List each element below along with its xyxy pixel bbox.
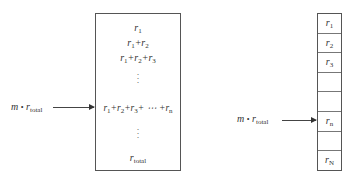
left-input-label: m • rtotal <box>11 101 42 114</box>
rate-column: r1 r2 r3 rn rN <box>317 13 342 171</box>
right-input-label: m • rtotal <box>237 113 268 126</box>
cell-r3: r3 <box>318 53 341 73</box>
total-subscript: total <box>256 118 268 126</box>
cumulative-sum-box: r1 r1+r2 r1+r2+r3 ··· r1+r2+r3+ ⋯ +rn ··… <box>95 13 181 171</box>
vertical-ellipsis-icon: ··· <box>96 127 180 139</box>
left-arrow-icon <box>53 107 94 108</box>
cum-r1-r2: r1+r2 <box>96 37 180 49</box>
cell-r2: r2 <box>318 34 341 54</box>
cell-empty <box>318 73 341 93</box>
cell-r1: r1 <box>318 14 341 34</box>
cell-empty <box>318 92 341 112</box>
right-arrow-icon <box>282 120 316 121</box>
cum-r1-to-rn: r1+r2+r3+ ⋯ +rn <box>96 102 180 114</box>
vertical-ellipsis-icon: ··· <box>96 72 180 84</box>
m-variable: m <box>11 101 18 112</box>
total-subscript: total <box>30 106 42 114</box>
cell-rn: rn <box>318 112 341 132</box>
multiply-dot: • <box>21 103 24 112</box>
multiply-dot: • <box>247 115 250 124</box>
cum-r1: r1 <box>96 22 180 34</box>
m-variable: m <box>237 113 244 124</box>
cell-rN: rN <box>318 151 341 171</box>
cum-r1-r2-r3: r1+r2+r3 <box>96 52 180 64</box>
cell-empty <box>318 132 341 152</box>
cum-r-total: rtotal <box>96 152 180 164</box>
